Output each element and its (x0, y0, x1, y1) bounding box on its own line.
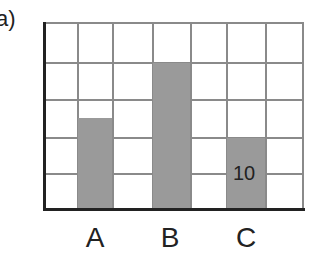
bar-a-cover (78, 118, 112, 208)
grid-line (112, 22, 114, 209)
bar-c-value: 10 (233, 162, 255, 185)
grid-line (43, 22, 303, 24)
x-tick-a: A (75, 222, 115, 254)
panel-label: a) (0, 6, 16, 32)
x-axis (43, 208, 305, 211)
grid-line (265, 22, 267, 209)
y-axis (43, 22, 46, 211)
grid-line (190, 22, 192, 209)
grid-line (302, 22, 304, 209)
bar-chart: 10 (43, 22, 303, 209)
x-tick-c: C (226, 222, 266, 254)
x-tick-b: B (150, 222, 190, 254)
bar-b-cover (153, 63, 190, 208)
